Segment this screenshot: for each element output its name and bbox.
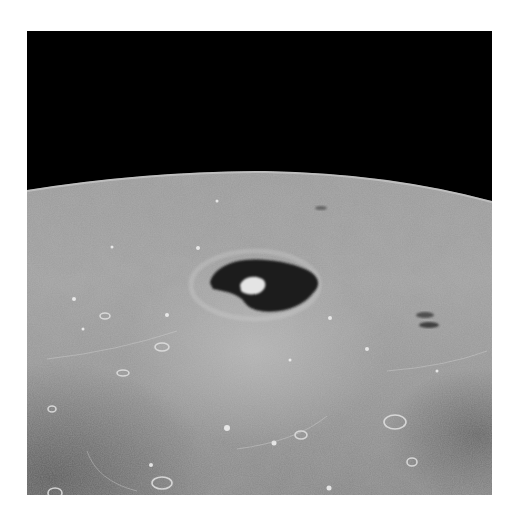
lunar-photo (27, 31, 492, 495)
lunar-surface (27, 161, 492, 495)
lunar-surface-image (27, 31, 492, 495)
dark-patch (416, 312, 434, 318)
dark-patch (419, 322, 439, 328)
